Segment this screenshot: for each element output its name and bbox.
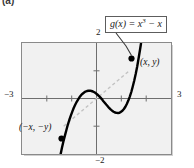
point-label-lower: (−x, −y) xyxy=(19,122,51,132)
callout-leader-line xyxy=(116,33,132,56)
formula-minus-term: − x xyxy=(148,18,162,29)
point-marker-lower xyxy=(58,135,64,141)
point-label-upper: (x, y) xyxy=(140,57,160,67)
axis-label-top: 2 xyxy=(96,28,101,37)
figure-container: (a) xyxy=(0,0,194,168)
axis-label-left: −3 xyxy=(4,90,14,99)
formula-function-name: g(x) xyxy=(110,18,126,29)
function-formula-callout: g(x) = x3 − x xyxy=(105,16,167,33)
axis-label-bottom: −2 xyxy=(95,156,105,165)
axis-label-right: 3 xyxy=(177,90,182,99)
point-marker-upper xyxy=(128,55,134,61)
